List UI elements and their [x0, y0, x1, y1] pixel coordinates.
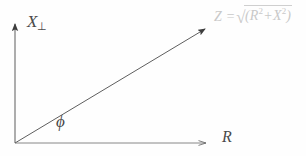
impedance-vector-line	[15, 29, 205, 143]
formula-z-symbol: Z	[214, 9, 222, 24]
square-root-group: √(R2+X2)	[235, 6, 292, 28]
vertical-axis-label: X⊥	[27, 12, 47, 33]
vertical-axis-symbol: X	[27, 12, 37, 31]
formula-equals-sign: =	[226, 9, 236, 24]
angle-phi-label: ϕ	[56, 112, 65, 132]
term-r-base: R	[250, 8, 259, 23]
radicand-expression: (R2+X2)	[244, 5, 292, 24]
plus-sign: +	[263, 8, 273, 23]
term-x-base: X	[273, 8, 282, 23]
diagram-canvas: X⊥ R ϕ Z =√(R2+X2)	[0, 0, 306, 156]
horizontal-axis-label: R	[222, 128, 232, 146]
paren-close: )	[286, 8, 291, 23]
vertical-axis-subscript: ⊥	[37, 20, 47, 32]
impedance-formula-label: Z =√(R2+X2)	[214, 6, 292, 28]
